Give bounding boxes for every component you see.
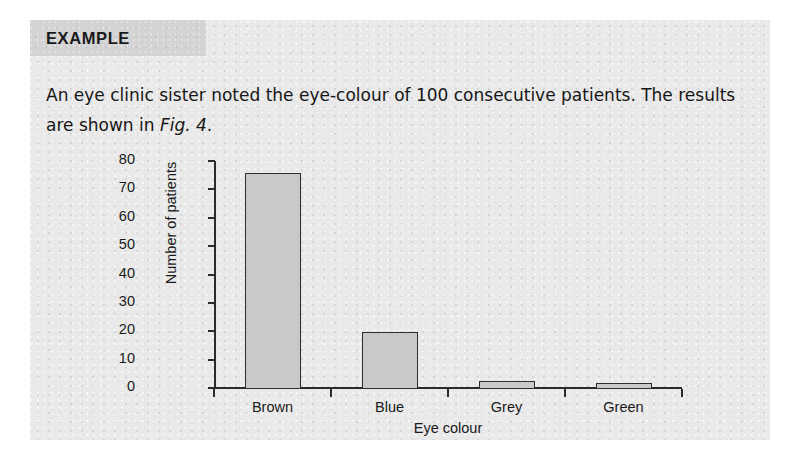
x-axis-tick-mark	[330, 389, 332, 397]
x-axis-tick-mark	[447, 389, 449, 397]
y-axis-tick-label: 60	[119, 208, 135, 224]
x-axis-tick-mark	[564, 389, 566, 397]
body-text-leading: An eye clinic sister noted the eye-colou…	[46, 85, 735, 135]
example-title: EXAMPLE	[46, 29, 130, 48]
x-axis-category-label: Green	[565, 399, 682, 415]
y-axis-tick-label: 0	[127, 378, 135, 394]
y-axis-title: Number of patients	[163, 162, 179, 285]
x-axis-category-label: Blue	[331, 399, 448, 415]
example-body-text: An eye clinic sister noted the eye-colou…	[46, 80, 746, 140]
example-callout-card: EXAMPLE An eye clinic sister noted the e…	[30, 20, 770, 440]
y-axis-tick-label: 50	[119, 236, 135, 252]
bars-layer	[214, 161, 682, 389]
page-root: EXAMPLE An eye clinic sister noted the e…	[0, 0, 790, 460]
bar-blue	[362, 332, 418, 389]
x-axis-title: Eye colour	[214, 420, 682, 436]
x-axis-category-label: Brown	[214, 399, 331, 415]
y-axis-tick-label: 40	[119, 265, 135, 281]
y-axis-tick-label: 20	[119, 321, 135, 337]
bar-green	[596, 383, 652, 389]
y-axis-tick-label: 30	[119, 293, 135, 309]
chart-plot-area: 01020304050607080 BrownBlueGreyGreen Eye…	[140, 155, 700, 435]
y-axis-tick-label: 80	[119, 151, 135, 167]
y-axis-tick: 10	[140, 359, 215, 361]
x-axis-tick-mark	[681, 389, 683, 397]
x-axis-tick-mark	[213, 389, 215, 397]
figure-reference: Fig. 4	[160, 115, 207, 135]
bar-brown	[245, 173, 301, 389]
x-axis-category-label: Grey	[448, 399, 565, 415]
y-axis-tick: 0	[140, 387, 215, 389]
y-axis-tick-label: 10	[119, 350, 135, 366]
body-text-trailing: .	[207, 115, 212, 135]
bar-grey	[479, 381, 535, 390]
example-tab-banner: EXAMPLE	[30, 20, 206, 56]
y-axis-tick: 20	[140, 330, 215, 332]
bar-chart-figure: 01020304050607080 BrownBlueGreyGreen Eye…	[140, 155, 700, 435]
y-axis-tick-label: 70	[119, 179, 135, 195]
y-axis-tick: 30	[140, 302, 215, 304]
